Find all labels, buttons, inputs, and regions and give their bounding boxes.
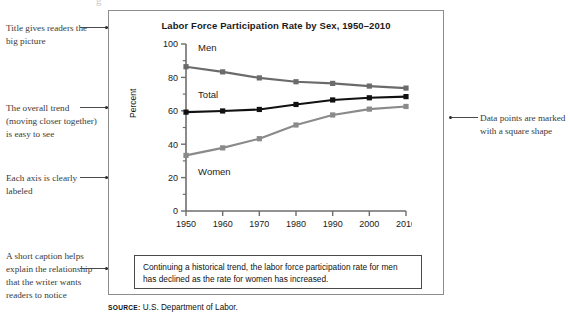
data-point-marker [403,104,408,109]
data-point-marker [293,79,298,84]
x-tick-label: 1970 [249,219,269,229]
leader-line-points [452,117,478,118]
y-tick-label: 40 [168,140,178,150]
data-point-marker [403,94,408,99]
data-point-marker [257,75,262,80]
source-line: SOURCE: U.S. Department of Labor. [108,303,238,312]
data-point-marker [293,122,298,127]
x-tick-label: 2010 [396,219,412,229]
leader-dot-caption [105,267,108,270]
annotation-points-note: Data points are marked with a square sha… [480,112,570,138]
data-point-marker [220,69,225,74]
series-label-women: Women [198,166,231,177]
data-point-marker [183,110,188,115]
y-tick-label: 80 [168,73,178,83]
source-label: SOURCE: [108,304,141,311]
x-tick-labels: 1950196019701980199020002010 [176,219,412,229]
chart-title: Labor Force Participation Rate by Sex, 1… [108,20,444,31]
y-tick-label: 20 [168,173,178,183]
leader-line-title [80,27,108,28]
figure-caption: Continuing a historical trend, the labor… [134,255,422,289]
x-tick-label: 1980 [286,219,306,229]
data-point-marker [330,81,335,86]
leader-dot-trend [105,106,108,109]
data-point-marker [367,107,372,112]
y-tick-label: 60 [168,106,178,116]
line-chart-svg: 020406080100 195019601970198019902000201… [160,40,412,237]
data-point-marker [330,112,335,117]
x-tick-label: 2000 [359,219,379,229]
data-point-marker [220,108,225,113]
leader-line-caption [80,268,108,269]
series-label-total: Total [198,89,218,100]
plot-area: 020406080100 195019601970198019902000201… [160,40,412,237]
data-point-marker [367,95,372,100]
x-tick-label: 1950 [176,219,196,229]
annotation-title-note: Title gives readers the big picture [6,22,98,48]
annotation-axis-note: Each axis is clearly labeled [6,172,98,198]
leader-dot-points [449,116,452,119]
y-tick-label: 0 [173,206,178,216]
data-point-marker [330,97,335,102]
data-point-marker [367,83,372,88]
leader-line-trend [80,107,108,108]
chart-series-group [183,64,408,158]
data-point-marker [220,145,225,150]
series-line-men [186,67,406,88]
data-point-marker [403,85,408,90]
x-tick-label: 1990 [323,219,343,229]
leader-dot-title [105,26,108,29]
series-inline-labels: MenTotalWomen [198,42,231,178]
leader-line-axis [80,177,108,178]
data-point-marker [183,153,188,158]
annotation-caption-note: A short caption helps explain the relati… [6,250,98,302]
x-tick-label: 1960 [213,219,233,229]
data-point-marker [183,64,188,69]
source-text: U.S. Department of Labor. [143,303,238,312]
y-tick-label: 100 [163,40,178,49]
data-point-marker [257,136,262,141]
top-cut-glyph: g [96,0,102,6]
leader-dot-axis [105,176,108,179]
data-point-marker [293,102,298,107]
series-line-women [186,106,406,155]
y-tick-labels: 020406080100 [163,40,178,216]
y-axis-title: Percent [128,89,138,118]
data-point-marker [257,107,262,112]
series-label-men: Men [198,42,216,53]
